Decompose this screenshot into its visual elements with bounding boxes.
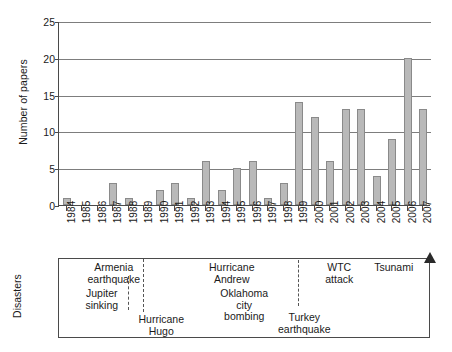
bar-cell	[338, 21, 354, 205]
annotation-label: Turkey earthquake	[278, 312, 331, 335]
chart-figure: Number of papers 0510152025 198419851986…	[0, 0, 452, 352]
bar-cell	[400, 21, 416, 205]
bar-cell	[214, 21, 230, 205]
bar-series	[59, 21, 431, 205]
y-tick-label-15: 15	[43, 90, 55, 102]
annotation-label: Tsunami	[374, 262, 413, 274]
bar-cell	[292, 21, 308, 205]
x-tick-label-cell: 1985	[74, 212, 90, 250]
bar-cell	[261, 21, 277, 205]
x-tick-label-cell: 1996	[244, 212, 260, 250]
bar-cell	[106, 21, 122, 205]
bar-cell	[276, 21, 292, 205]
bar-cell	[168, 21, 184, 205]
x-tick-label-cell: 1997	[260, 212, 276, 250]
annotation-label: Oklahoma city bombing	[220, 288, 268, 323]
x-tick-label-cell: 1995	[229, 212, 245, 250]
x-tick-label-cell: 2004	[368, 212, 384, 250]
annotation-label: Jupiter sinking	[85, 288, 118, 311]
x-tick-label-cell: 1999	[291, 212, 307, 250]
annotation-label: WTC attack	[325, 262, 353, 285]
bar-cell	[137, 21, 153, 205]
bar-cell	[199, 21, 215, 205]
x-tick-label-cell: 2002	[337, 212, 353, 250]
bar-cell	[183, 21, 199, 205]
bar-1993	[202, 161, 210, 205]
bar-2006	[404, 58, 412, 205]
y-axis-title: Number of papers	[17, 32, 29, 172]
bar-cell	[416, 21, 432, 205]
bar-2002	[342, 109, 350, 205]
bar-2007	[419, 109, 427, 205]
annotation-leader-line	[128, 276, 129, 310]
bar-cell	[230, 21, 246, 205]
bar-cell	[307, 21, 323, 205]
x-tick-label-cell: 2006	[399, 212, 415, 250]
timeline-arrow-icon	[424, 252, 436, 263]
bar-2001	[326, 161, 334, 205]
x-tick-label-cell: 1986	[89, 212, 105, 250]
bar-cell	[354, 21, 370, 205]
x-tick-label-cell: 2005	[384, 212, 400, 250]
x-tick-label-cell: 1989	[136, 212, 152, 250]
bar-1999	[295, 102, 303, 205]
x-tick-label-cell: 1993	[198, 212, 214, 250]
x-tick-label-cell: 1984	[58, 212, 74, 250]
disasters-axis-label: Disasters	[11, 261, 23, 331]
x-tick-label-cell: 2003	[353, 212, 369, 250]
x-axis-tick-labels: 1984198519861987198819891990199119921993…	[58, 212, 430, 250]
bar-2005	[388, 139, 396, 205]
annotation-leader-line	[143, 259, 144, 312]
y-tick-label-10: 10	[43, 126, 55, 138]
bar-2003	[357, 109, 365, 205]
x-tick-label-cell: 1988	[120, 212, 136, 250]
bar-cell	[75, 21, 91, 205]
bar-cell	[121, 21, 137, 205]
bar-cell	[369, 21, 385, 205]
bar-cell	[245, 21, 261, 205]
annotation-label: Hurricane Hugo	[138, 314, 184, 337]
bar-cell	[385, 21, 401, 205]
plot-area: 0510152025	[58, 22, 430, 206]
bar-cell	[323, 21, 339, 205]
x-tick-label-cell: 1998	[275, 212, 291, 250]
x-tick-label-cell: 1987	[105, 212, 121, 250]
bar-2000	[311, 117, 319, 205]
annotation-label: Armenia earthquake	[87, 262, 140, 285]
y-tick-label-25: 25	[43, 16, 55, 28]
bar-cell	[152, 21, 168, 205]
x-tick-label-cell: 2007	[415, 212, 431, 250]
bar-cell	[59, 21, 75, 205]
bar-cell	[90, 21, 106, 205]
annotation-leader-line	[298, 260, 299, 306]
bar-1996	[249, 161, 257, 205]
x-tick-label-cell: 1992	[182, 212, 198, 250]
annotation-label: Hurricane Andrew	[209, 262, 255, 285]
x-tick-label-cell: 1991	[167, 212, 183, 250]
x-tick-label-cell: 1990	[151, 212, 167, 250]
x-tick-label-cell: 2001	[322, 212, 338, 250]
x-tick-label-2007: 2007	[422, 201, 433, 224]
x-tick-label-cell: 1994	[213, 212, 229, 250]
y-tick-label-20: 20	[43, 53, 55, 65]
x-tick-label-cell: 2000	[306, 212, 322, 250]
